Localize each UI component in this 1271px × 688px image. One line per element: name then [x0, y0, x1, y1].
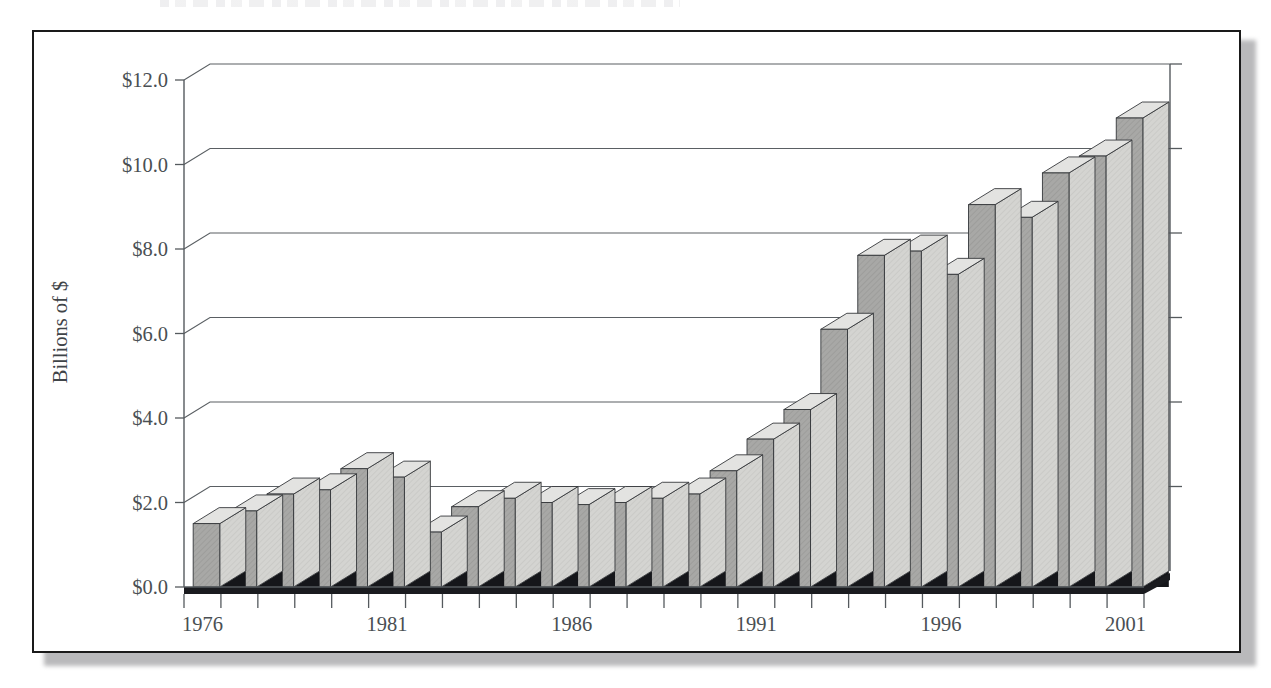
y-axis-title: Billions of $ — [49, 281, 71, 384]
x-axis-tick-label: 1981 — [367, 613, 408, 635]
bars — [193, 102, 1169, 587]
bar — [193, 508, 246, 587]
chart-plot-area: Billions of $ $0.0$2.0$4.0$6.0$8.0$10.0$… — [34, 32, 1243, 655]
y-axis-tick-label: $2.0 — [132, 492, 168, 514]
y-axis-tick-label: $6.0 — [132, 323, 168, 345]
y-axis-tick-label: $8.0 — [132, 238, 168, 260]
bar-chart: Billions of $ $0.0$2.0$4.0$6.0$8.0$10.0$… — [34, 32, 1243, 655]
x-axis-tick-label: 1976 — [182, 613, 223, 635]
x-axis-tick-label: 1991 — [736, 613, 777, 635]
x-axis: 197619811986199119962001 — [182, 587, 1146, 635]
y-axis-tick-label: $4.0 — [132, 407, 168, 429]
x-axis-tick-label: 1996 — [920, 613, 961, 635]
scanned-page-header-sliver — [160, 0, 680, 7]
y-axis-tick-label: $10.0 — [122, 154, 168, 176]
y-axis-title-group: Billions of $ — [49, 281, 71, 384]
y-axis-tick-label: $0.0 — [132, 576, 168, 598]
chart-figure-frame: Billions of $ $0.0$2.0$4.0$6.0$8.0$10.0$… — [32, 30, 1241, 653]
y-axis-tick-label: $12.0 — [122, 69, 168, 91]
x-axis-tick-label: 2001 — [1105, 613, 1146, 635]
x-axis-tick-label: 1986 — [551, 613, 592, 635]
